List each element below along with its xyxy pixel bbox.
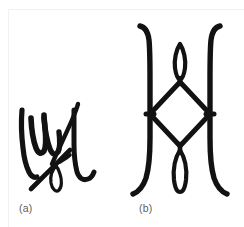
- figure-panel-a: [14, 88, 100, 200]
- figure-panel-b-caption: (b): [139, 202, 152, 214]
- figure-container: (a): [0, 0, 244, 227]
- figure-panel-b: [128, 18, 232, 202]
- figure-panel-a-caption: (a): [19, 202, 32, 214]
- formal-monogram-glyph: [128, 18, 232, 202]
- cursive-monogram-glyph: [14, 88, 100, 200]
